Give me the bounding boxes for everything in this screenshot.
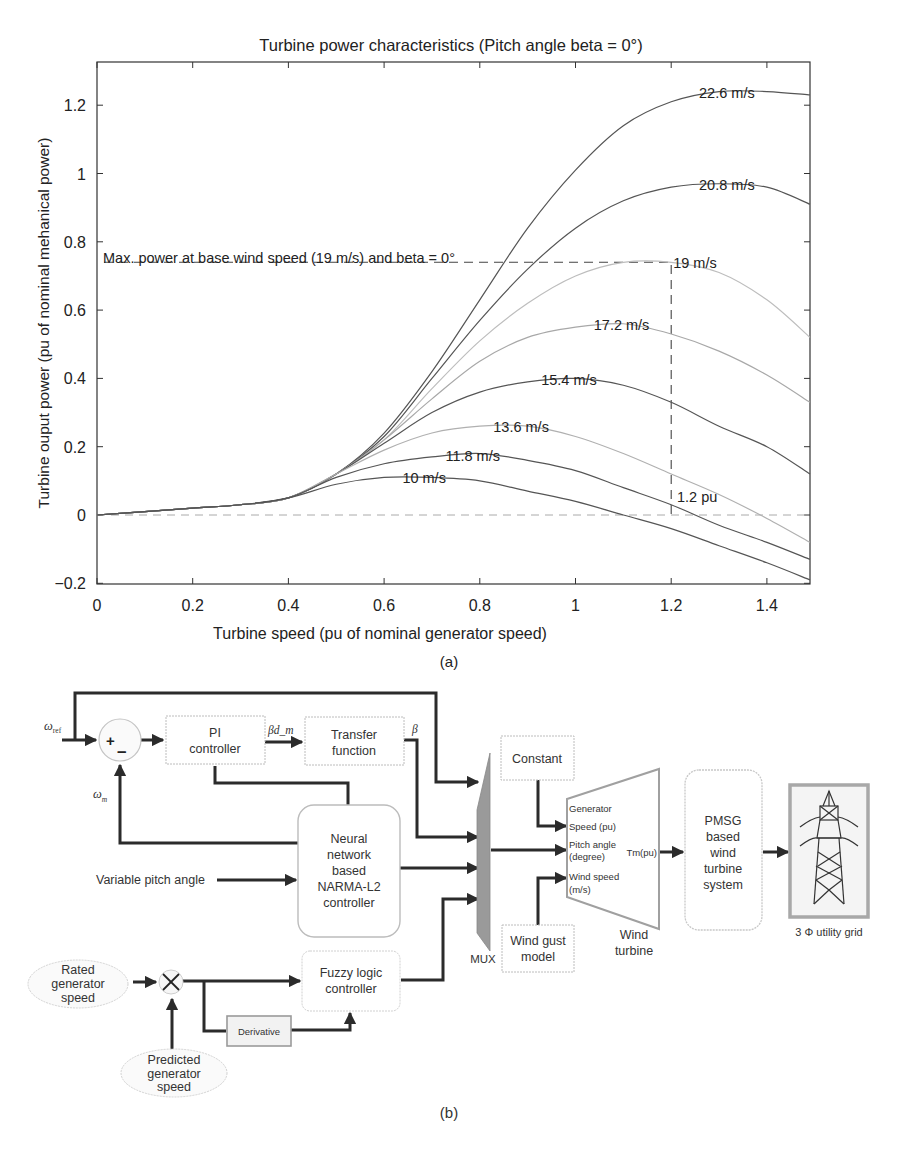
utility-grid-block[interactable]: 3 Φ utility grid	[790, 785, 868, 938]
speed-1-2pu-annotation: 1.2 pu	[677, 489, 717, 505]
svg-text:Constant: Constant	[512, 752, 563, 766]
svg-text:Pitch angle: Pitch angle	[569, 839, 616, 850]
chart-title: Turbine power characteristics (Pitch ang…	[259, 36, 642, 54]
panel-b-caption: (b)	[440, 1104, 458, 1121]
svg-text:NARMA-L2: NARMA-L2	[317, 880, 380, 894]
x-tick-label: 1.4	[756, 597, 778, 614]
power-curve	[97, 453, 810, 559]
svg-text:Neural: Neural	[331, 832, 368, 846]
svg-text:turbine: turbine	[615, 944, 653, 958]
y-tick-label: 1	[77, 166, 86, 183]
svg-text:Wind gust: Wind gust	[510, 934, 566, 948]
plus-sign: +	[106, 732, 115, 749]
panel-a-caption: (a)	[440, 653, 458, 670]
svg-text:Wind: Wind	[620, 928, 649, 942]
svg-text:Generator: Generator	[569, 803, 612, 814]
omega-ref-label: ωref	[44, 719, 62, 735]
svg-text:generator: generator	[51, 977, 105, 991]
x-tick-label: 1.2	[660, 597, 682, 614]
x-axis-ticks: 00.20.40.60.811.21.4	[93, 62, 779, 614]
pmsg-wind-turbine-system-block[interactable]: PMSG based wind turbine system	[685, 770, 762, 930]
svg-text:wind: wind	[709, 846, 736, 860]
y-tick-label: 0	[77, 507, 86, 524]
y-tick-label: 1.2	[64, 97, 86, 114]
neural-network-narma-l2-block[interactable]: Neural network based NARMA-L2 controller	[298, 805, 400, 937]
svg-text:Rated: Rated	[61, 963, 94, 977]
svg-text:Predicted: Predicted	[148, 1053, 201, 1067]
svg-text:speed: speed	[61, 991, 95, 1005]
svg-text:PMSG: PMSG	[705, 814, 742, 828]
svg-text:(m/s): (m/s)	[569, 884, 591, 895]
curve-labels: 22.6 m/s20.8 m/s19 m/s17.2 m/s15.4 m/s13…	[402, 85, 754, 487]
svg-text:3 Φ utility grid: 3 Φ utility grid	[795, 926, 862, 938]
svg-text:controller: controller	[325, 982, 376, 996]
svg-text:model: model	[521, 950, 555, 964]
svg-text:(degree): (degree)	[569, 851, 605, 862]
transfer-function-block[interactable]: Transfer function	[305, 717, 404, 765]
y-tick-label: 0.2	[64, 439, 86, 456]
svg-text:MUX: MUX	[470, 953, 496, 965]
svg-text:generator: generator	[147, 1067, 201, 1081]
curve-label: 10 m/s	[402, 470, 446, 486]
multiplier-junction	[159, 970, 183, 994]
pi-controller-block[interactable]: PI controller	[166, 716, 265, 764]
svg-text:speed: speed	[157, 1080, 191, 1094]
figure: Turbine power characteristics (Pitch ang…	[0, 0, 898, 1151]
curve-label: 19 m/s	[673, 255, 717, 271]
x-tick-label: 0.4	[277, 597, 299, 614]
beta-dm-label: βd_m	[267, 724, 294, 737]
plot-area	[97, 62, 810, 584]
svg-text:based: based	[706, 830, 740, 844]
curve-label: 11.8 m/s	[445, 448, 500, 464]
omega-m-label: ωm	[93, 787, 108, 804]
y-axis-ticks: −0.200.20.40.60.811.2	[54, 97, 810, 592]
y-tick-label: −0.2	[54, 575, 86, 592]
minus-sign: –	[117, 742, 126, 761]
x-tick-label: 0	[93, 597, 102, 614]
power-curves	[97, 91, 810, 580]
curve-label: 17.2 m/s	[594, 317, 650, 333]
chart-panel-a: Turbine power characteristics (Pitch ang…	[35, 36, 810, 670]
svg-text:Speed (pu): Speed (pu)	[569, 821, 616, 832]
block-diagram-panel-b: + – ωref ωm βd_m β PI controller Transfe…	[28, 693, 868, 1121]
summing-junction: + –	[99, 719, 141, 761]
x-tick-label: 0.6	[373, 597, 395, 614]
y-axis-label: Turbine ouput power (pu of nominal mehan…	[35, 138, 52, 509]
power-curve	[97, 184, 810, 515]
svg-text:based: based	[332, 864, 366, 878]
x-tick-label: 0.2	[182, 597, 204, 614]
svg-text:controller: controller	[189, 742, 240, 756]
max-power-annotation: Max. power at base wind speed (19 m/s) a…	[103, 250, 455, 266]
x-axis-label: Turbine speed (pu of nominal generator s…	[213, 625, 547, 642]
y-tick-label: 0.4	[64, 370, 86, 387]
svg-text:system: system	[703, 878, 743, 892]
svg-text:network: network	[327, 848, 372, 862]
wind-turbine-block[interactable]: Generator Speed (pu) Pitch angle (degree…	[567, 769, 659, 958]
curve-label: 13.6 m/s	[493, 419, 549, 435]
mux-block[interactable]: MUX	[470, 753, 496, 965]
predicted-generator-speed-input[interactable]: Predicted generator speed	[121, 1049, 227, 1097]
y-tick-label: 0.6	[64, 302, 86, 319]
tm-output-label: Tm(pu)	[626, 847, 657, 858]
constant-block[interactable]: Constant	[501, 736, 574, 780]
x-tick-label: 0.8	[469, 597, 491, 614]
x-tick-label: 1	[571, 597, 580, 614]
beta-label: β	[411, 723, 418, 736]
svg-text:turbine: turbine	[704, 862, 742, 876]
curve-label: 15.4 m/s	[541, 372, 597, 388]
svg-text:Fuzzy logic: Fuzzy logic	[320, 966, 383, 980]
variable-pitch-angle-label: Variable pitch angle	[96, 873, 205, 887]
wind-gust-model-block[interactable]: Wind gust model	[502, 925, 574, 972]
svg-text:Wind speed: Wind speed	[569, 871, 619, 882]
fuzzy-logic-controller-block[interactable]: Fuzzy logic controller	[302, 951, 400, 1011]
svg-text:function: function	[332, 744, 376, 758]
power-curve	[97, 261, 810, 515]
curve-label: 22.6 m/s	[699, 85, 755, 101]
rated-generator-speed-input[interactable]: Rated generator speed	[28, 960, 128, 1008]
power-curve	[97, 425, 810, 542]
curve-label: 20.8 m/s	[699, 177, 755, 193]
derivative-block[interactable]: Derivative	[227, 1016, 291, 1046]
y-tick-label: 0.8	[64, 234, 86, 251]
svg-text:Transfer: Transfer	[331, 728, 377, 742]
svg-text:controller: controller	[323, 896, 374, 910]
